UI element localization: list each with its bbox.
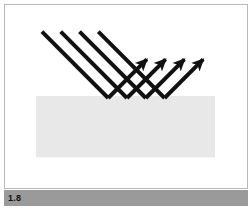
figure-card (4, 4, 248, 189)
reflected-ray-4 (165, 59, 204, 98)
reflected-ray-3 (146, 59, 185, 98)
reflection-diagram (5, 5, 247, 188)
reflecting-surface (36, 96, 215, 157)
figure-footer-bar: 1.8 (4, 190, 248, 206)
incident-ray-group (42, 32, 165, 98)
incident-ray-1 (42, 32, 108, 98)
figure-number-label: 1.8 (4, 194, 21, 203)
figure-container: 1.8 (0, 0, 252, 210)
